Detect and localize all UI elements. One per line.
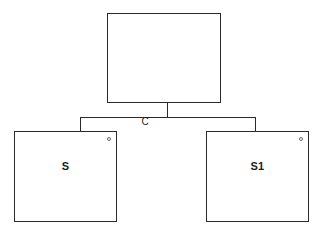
connector-horizontal-bus — [80, 117, 256, 118]
connector-drop-left — [80, 117, 81, 132]
connector-root-stem — [167, 103, 168, 118]
node-root-box[interactable] — [107, 13, 221, 103]
diagram-canvas: C S S1 — [0, 0, 325, 234]
small-circle-icon — [299, 137, 303, 141]
node-child-left-label: S — [15, 161, 116, 172]
node-child-right-label: S1 — [207, 161, 308, 172]
node-child-right-box[interactable]: S1 — [206, 131, 309, 222]
connector-drop-right — [255, 117, 256, 132]
node-child-left-box[interactable]: S — [14, 131, 117, 222]
small-circle-icon — [107, 137, 111, 141]
edge-label-c: C — [136, 117, 154, 127]
